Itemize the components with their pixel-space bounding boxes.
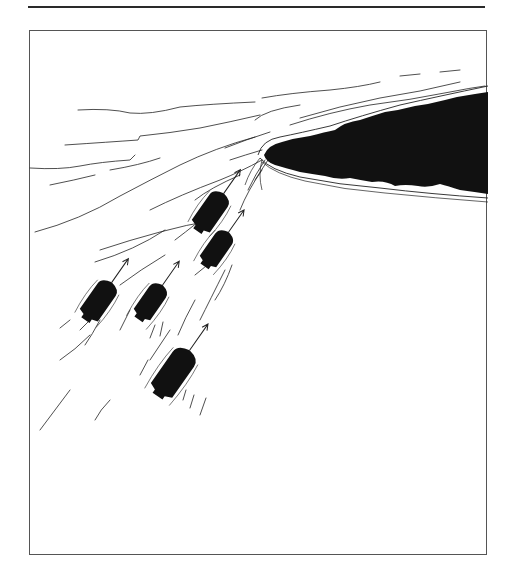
- boat-5: [143, 315, 221, 407]
- island: [245, 86, 488, 202]
- boat-4: [125, 253, 190, 330]
- boat-1: [186, 161, 253, 239]
- boats: [74, 161, 256, 406]
- boat-3: [74, 250, 141, 328]
- boats-illustration: [0, 0, 513, 580]
